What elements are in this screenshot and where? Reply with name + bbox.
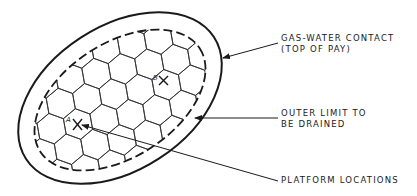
drainage-cell bbox=[312, 0, 341, 1]
platform-marker-a bbox=[73, 119, 82, 130]
drainage-cell bbox=[0, 148, 4, 179]
drainage-cell bbox=[185, 182, 214, 195]
drainage-cell bbox=[160, 115, 189, 146]
reservoir-diagram: A B bbox=[0, 0, 417, 195]
drainage-cell bbox=[0, 52, 14, 82]
drainage-cell bbox=[162, 0, 191, 4]
drainage-cell bbox=[274, 143, 303, 174]
drainage-cell bbox=[30, 0, 59, 27]
outer-limit-line2: BE DRAINED bbox=[281, 119, 367, 130]
drainage-cell bbox=[89, 175, 118, 195]
outer-limit-label: OUTER LIMIT TO BE DRAINED bbox=[281, 108, 367, 130]
drainage-cell bbox=[159, 186, 188, 195]
platform-locations-line1: PLATFORM LOCATIONS bbox=[281, 175, 399, 186]
drainage-cell bbox=[9, 189, 38, 195]
platform-locations-label: PLATFORM LOCATIONS bbox=[281, 175, 399, 186]
drainage-cell bbox=[259, 0, 288, 10]
drainage-cell bbox=[204, 131, 233, 162]
drainage-cell bbox=[213, 106, 242, 137]
drainage-cell bbox=[232, 0, 261, 15]
gas-water-contact-arrow bbox=[223, 43, 278, 58]
gas-water-contact-line1: GAS-WATER CONTACT bbox=[281, 33, 395, 44]
drainage-cell bbox=[230, 127, 259, 158]
drainage-cell bbox=[0, 123, 13, 154]
drainage-cell bbox=[212, 177, 241, 195]
drainage-cell bbox=[285, 0, 314, 6]
drainage-cell bbox=[256, 193, 285, 195]
drainage-cell bbox=[65, 38, 94, 68]
drainage-cell bbox=[327, 133, 356, 164]
drainage-cell bbox=[258, 51, 287, 82]
drainage-cell bbox=[276, 0, 305, 31]
drainage-cell bbox=[231, 56, 260, 87]
platform-label-b: B bbox=[153, 74, 158, 82]
drainage-cell bbox=[151, 141, 180, 172]
drainage-cell bbox=[100, 8, 129, 39]
drainage-cell bbox=[353, 129, 382, 160]
drainage-cell bbox=[197, 14, 226, 45]
drainage-cell bbox=[300, 138, 329, 169]
drainage-cell bbox=[57, 0, 86, 22]
drainage-cell bbox=[329, 0, 358, 22]
drainage-cell bbox=[301, 67, 330, 98]
drainage-cell bbox=[83, 0, 112, 18]
drainage-cell bbox=[39, 0, 68, 2]
gas-water-contact-label: GAS-WATER CONTACT (TOP OF PAY) bbox=[281, 33, 395, 55]
drainage-cell bbox=[0, 169, 21, 196]
drainage-cell bbox=[238, 172, 267, 195]
drainage-cell bbox=[36, 184, 65, 195]
drainage-cell bbox=[214, 35, 243, 66]
drainage-cell bbox=[133, 191, 162, 195]
drainage-cell bbox=[180, 0, 209, 24]
drainage-cell bbox=[0, 0, 16, 11]
drainage-cell bbox=[0, 6, 6, 37]
drainage-cell bbox=[142, 166, 171, 195]
drainage-cell bbox=[186, 111, 215, 142]
drainage-cell bbox=[3, 72, 32, 103]
drainage-cell bbox=[0, 27, 24, 58]
platform-locations-arrow bbox=[82, 125, 278, 181]
drainage-cell bbox=[275, 71, 304, 102]
platform-marker-b bbox=[159, 76, 168, 85]
drainage-cell bbox=[0, 77, 5, 108]
drainage-cell bbox=[38, 42, 67, 73]
outer-limit-line1: OUTER LIMIT TO bbox=[281, 108, 367, 119]
drainage-cell bbox=[0, 194, 12, 195]
drainage-cell bbox=[223, 10, 252, 41]
drainage-cell bbox=[45, 159, 74, 190]
drainage-cell bbox=[109, 0, 138, 13]
platform-label-a: A bbox=[65, 116, 71, 124]
drainage-cell bbox=[250, 5, 279, 35]
drainage-cell bbox=[239, 101, 268, 132]
drainage-cell bbox=[240, 30, 269, 61]
drainage-cell bbox=[12, 47, 41, 78]
drainage-cell bbox=[222, 81, 251, 112]
drainage-cell bbox=[221, 152, 250, 183]
gas-water-contact-line2: (TOP OF PAY) bbox=[281, 44, 395, 55]
drainage-cell bbox=[13, 0, 42, 7]
outer-limit-dashed-ellipse bbox=[9, 0, 230, 195]
drainage-cell bbox=[136, 0, 165, 9]
drainage-cell bbox=[303, 0, 332, 26]
drainage-cell bbox=[282, 188, 311, 195]
drainage-cell bbox=[4, 1, 33, 32]
drainage-cell bbox=[206, 0, 235, 20]
gas-water-contact-ellipse bbox=[0, 0, 253, 195]
drainage-cell bbox=[249, 76, 278, 107]
drainage-cell bbox=[328, 62, 357, 93]
drainage-hex-grid bbox=[0, 0, 398, 195]
drainage-cell bbox=[21, 22, 50, 53]
drainage-cell bbox=[196, 85, 225, 116]
drainage-cell bbox=[168, 161, 197, 192]
